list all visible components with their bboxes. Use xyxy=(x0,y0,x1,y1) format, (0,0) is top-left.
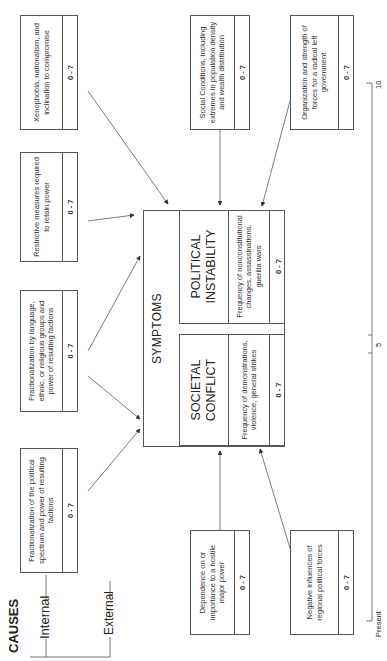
cause-text: Negative influences of regional politica… xyxy=(291,531,338,634)
cause-box-xenophobia: Xenophobia, nationalism, and inclination… xyxy=(20,15,78,130)
cause-box-social-conditions: Social Conditions, including extremes in… xyxy=(190,15,250,130)
cause-text: Organization and strength of forces for … xyxy=(291,16,338,129)
cause-box-regional-forces: Negative influences of regional politica… xyxy=(290,530,354,635)
cause-text: Restrictive measures required to retain … xyxy=(21,153,62,261)
cause-score: 0 - 7 xyxy=(62,449,77,572)
timeline-present-label: Present xyxy=(374,611,383,637)
societal-conflict-description: Frequency of demonstrations, violence, g… xyxy=(229,335,270,445)
cause-text: Dependence on or importance to a hostile… xyxy=(191,531,234,634)
cause-box-restrictive-measures: Restrictive measures required to retain … xyxy=(20,152,78,262)
cause-score: 0 - 7 xyxy=(338,531,353,634)
political-instability-description: Frequency of nonconstitutional changes, … xyxy=(229,210,270,323)
political-instability-heading: POLITICAL INSTABILITY xyxy=(180,210,229,323)
cause-text: Social Conditions, including extremes in… xyxy=(191,16,234,129)
external-label: External xyxy=(102,591,116,635)
societal-conflict-score: 0 - 7 xyxy=(270,335,286,445)
cause-text: Fractionalization of the political spect… xyxy=(21,449,62,572)
cause-score: 0 - 7 xyxy=(234,531,249,634)
cause-text: Xenophobia, nationalism, and inclination… xyxy=(21,16,62,129)
cause-score: 0 - 7 xyxy=(338,16,353,129)
diagram-canvas: CAUSES Internal External Fractionalizati… xyxy=(0,0,387,661)
societal-conflict-box: SOCIETAL CONFLICT Frequency of demonstra… xyxy=(179,334,284,446)
cause-score: 0 - 7 xyxy=(62,291,77,411)
timeline-end-label: 10 xyxy=(374,81,383,89)
political-instability-box: POLITICAL INSTABILITY Frequency of nonco… xyxy=(179,210,284,324)
heading-line: CONFLICT xyxy=(204,359,219,422)
cause-score: 0 - 7 xyxy=(62,16,77,129)
political-instability-score: 0 - 7 xyxy=(270,210,286,323)
symptoms-box: SYMPTOMS SOCIETAL CONFLICT Frequency of … xyxy=(143,210,285,447)
cause-box-language-groups: Fractionalization by language, ethnic, o… xyxy=(20,290,78,412)
timeline-mid-label: 5 xyxy=(374,343,383,347)
cause-box-hostile-power: Dependence on or importance to a hostile… xyxy=(190,530,250,635)
heading-line: INSTABILITY xyxy=(204,229,219,303)
internal-label: Internal xyxy=(37,596,52,639)
cause-box-political-spectrum: Fractionalization of the political spect… xyxy=(20,448,78,573)
causes-title: CAUSES xyxy=(6,599,21,653)
cause-score: 0 - 7 xyxy=(62,153,77,261)
symptoms-title: SYMPTOMS xyxy=(150,211,164,446)
cause-box-radical-left: Organization and strength of forces for … xyxy=(290,15,354,130)
cause-text: Fractionalization by language, ethnic, o… xyxy=(21,291,62,411)
societal-conflict-heading: SOCIETAL CONFLICT xyxy=(180,335,229,445)
heading-line: SOCIETAL xyxy=(189,359,204,422)
heading-line: POLITICAL xyxy=(189,229,204,303)
cause-score: 0 - 7 xyxy=(234,16,249,129)
